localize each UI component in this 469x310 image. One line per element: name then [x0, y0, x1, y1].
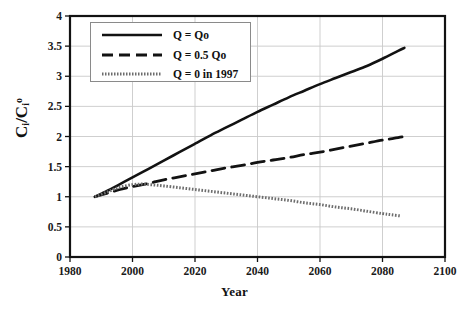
- x-tick-label: 2040: [228, 265, 288, 277]
- y-axis-title: Ci/Cio: [12, 68, 32, 168]
- y-tick-label: 0: [22, 251, 62, 263]
- legend-item-3[interactable]: Q = 0 in 1997: [91, 64, 252, 84]
- x-tick-label: 2100: [415, 265, 469, 277]
- legend-line-sample-icon: [101, 45, 163, 65]
- chart-legend: Q = QoQ = 0.5 QoQ = 0 in 1997: [90, 22, 251, 82]
- legend-item-label: Q = 0.5 Qo: [173, 45, 226, 65]
- legend-item-label: Q = Qo: [173, 25, 209, 45]
- legend-item-1[interactable]: Q = Qo: [91, 25, 252, 45]
- y-tick-label: 4: [22, 10, 62, 22]
- y-tick-label: 1: [22, 191, 62, 203]
- x-tick-label: 2020: [165, 265, 225, 277]
- x-tick-label: 2080: [353, 265, 413, 277]
- x-tick-label: 2000: [103, 265, 163, 277]
- legend-line-sample-icon: [101, 25, 163, 45]
- x-axis-title: Year: [0, 284, 469, 300]
- y-tick-label: 0.5: [22, 221, 62, 233]
- legend-item-2[interactable]: Q = 0.5 Qo: [91, 45, 252, 65]
- chart-figure: 00.511.522.533.54 1980200020202040206020…: [0, 0, 469, 310]
- y-tick-label: 3.5: [22, 40, 62, 52]
- legend-line-sample-icon: [101, 64, 163, 84]
- x-tick-label: 1980: [40, 265, 100, 277]
- legend-item-label: Q = 0 in 1997: [173, 64, 238, 84]
- x-tick-label: 2060: [290, 265, 350, 277]
- y-axis-title-text: Ci/Cio: [12, 98, 31, 138]
- series-line-3: [95, 184, 401, 216]
